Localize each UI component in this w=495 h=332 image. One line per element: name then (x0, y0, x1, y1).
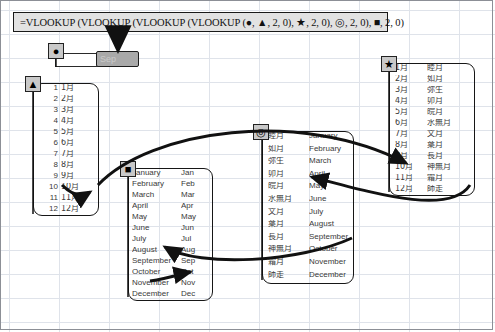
cell-value: December (309, 271, 353, 284)
table-row: JanuaryJan (129, 169, 212, 180)
cell-key: 如月 (268, 145, 309, 158)
cell-key: 12月 (395, 185, 427, 196)
cell-value: Apr (181, 202, 211, 213)
circle-marker-icon: ● (48, 43, 64, 59)
table-row: 88月 (34, 161, 98, 172)
cell-value: 如月 (427, 75, 473, 86)
cell-value: February (309, 145, 353, 158)
cell-value: 10月 (61, 183, 97, 194)
table-row: 10月神無月 (390, 163, 474, 174)
cell-value: 葉月 (427, 141, 473, 152)
cell-key: 3月 (395, 86, 427, 97)
table-row: 9月長月 (390, 152, 474, 163)
lookup-table-square[interactable]: JanuaryJan FebruaryFeb MarchMar AprilApr… (128, 168, 213, 301)
cell-key: 4 (38, 117, 61, 128)
formula-text: =VLOOKUP (VLOOKUP (VLOOKUP (VLOOKUP (●, … (20, 16, 404, 28)
double-circle-marker-icon: ◎ (253, 124, 269, 140)
cell-value: 6月 (61, 139, 97, 150)
table-row: 皖月May (263, 182, 353, 195)
cell-value: 水無月 (427, 119, 473, 130)
cell-value: October (309, 245, 353, 258)
table-row: 葉月August (263, 220, 353, 233)
cell-value: June (309, 195, 353, 208)
cell-key: 長月 (268, 233, 309, 246)
cell-value: 11月 (61, 194, 97, 205)
cell-value: Jun (181, 224, 211, 235)
cell-value: November (309, 258, 353, 271)
cell-key: 文月 (268, 208, 309, 221)
cell-key: 12 (38, 205, 61, 216)
cell-key: 3 (38, 106, 61, 117)
cell-value: Nov (181, 279, 211, 290)
cell-key: January (132, 169, 181, 180)
cell-value: March (309, 157, 353, 170)
cell-key: 7月 (395, 130, 427, 141)
spreadsheet-diagram: =VLOOKUP (VLOOKUP (VLOOKUP (VLOOKUP (●, … (0, 0, 495, 332)
table-row: 5月皖月 (390, 108, 474, 119)
lookup-table-double-circle[interactable]: 睦月January 如月February 弥生March 卯月April 皖月M… (262, 131, 354, 284)
cell-key: 10月 (395, 163, 427, 174)
table-row: 99月 (34, 172, 98, 183)
cell-value: Oct (181, 268, 211, 279)
lookup-table-star[interactable]: 1月睦月 2月如月 3月弥生 4月卯月 5月皖月 6月水無月 7月文月 8月葉月… (389, 63, 475, 196)
square-glyph: ■ (125, 164, 132, 175)
result-cell[interactable]: Sep (96, 51, 139, 67)
cell-value: 睦月 (427, 64, 473, 75)
cell-value: 12月 (61, 205, 97, 216)
cell-value: September (309, 233, 353, 246)
formula-bar[interactable]: =VLOOKUP (VLOOKUP (VLOOKUP (VLOOKUP (●, … (13, 12, 388, 32)
cell-value: Dec (181, 290, 211, 301)
table-row: 長月September (263, 233, 353, 246)
cell-value: 8月 (61, 161, 97, 172)
cell-key: December (132, 290, 181, 301)
double-circle-glyph: ◎ (256, 127, 266, 138)
result-cell-value: Sep (100, 54, 116, 64)
cell-key: 睦月 (268, 132, 309, 145)
table-row: 12月師走 (390, 185, 474, 196)
table-row: SeptemberSep (129, 257, 212, 268)
cell-key: 葉月 (268, 220, 309, 233)
table-row: 神無月October (263, 245, 353, 258)
lookup-table-triangle[interactable]: 11月 22月 33月 44月 55月 66月 77月 88月 99月 1010… (33, 83, 99, 216)
cell-key: September (132, 257, 181, 268)
table-row: MarchMar (129, 191, 212, 202)
cell-value: Mar (181, 191, 211, 202)
cell-key: 8 (38, 161, 61, 172)
cell-key: August (132, 246, 181, 257)
cell-value: Sep (181, 257, 211, 268)
cell-value: 4月 (61, 117, 97, 128)
cell-key: July (132, 235, 181, 246)
cell-value: April (309, 170, 353, 183)
cell-key: April (132, 202, 181, 213)
cell-value: May (181, 213, 211, 224)
table-row: 3月弥生 (390, 86, 474, 97)
cell-key: 皖月 (268, 182, 309, 195)
table-row: 22月 (34, 95, 98, 106)
star-glyph: ★ (384, 59, 394, 70)
table-row: MayMay (129, 213, 212, 224)
table-row: 1010月 (34, 183, 98, 194)
cell-value: 9月 (61, 172, 97, 183)
cell-value: Jul (181, 235, 211, 246)
table-row: 1212月 (34, 205, 98, 216)
cell-value: January (309, 132, 353, 145)
table-row: 師走December (263, 271, 353, 284)
triangle-glyph: ▲ (28, 79, 39, 90)
cell-key: 1 (38, 84, 61, 95)
cell-value: July (309, 208, 353, 221)
table-row: NovemberNov (129, 279, 212, 290)
cell-value: 神無月 (427, 163, 473, 174)
cell-key: 6 (38, 139, 61, 150)
cell-key: 9 (38, 172, 61, 183)
cell-key: 10 (38, 183, 61, 194)
table-row: 睦月January (263, 132, 353, 145)
cell-value: 弥生 (427, 86, 473, 97)
cell-value: August (309, 220, 353, 233)
table-row: FebruaryFeb (129, 180, 212, 191)
cell-key: 卯月 (268, 170, 309, 183)
cell-value: 師走 (427, 185, 473, 196)
table-row: 11月 (34, 84, 98, 95)
star-marker-icon: ★ (381, 56, 397, 72)
cell-key: 7 (38, 150, 61, 161)
circle-glyph: ● (53, 46, 60, 57)
